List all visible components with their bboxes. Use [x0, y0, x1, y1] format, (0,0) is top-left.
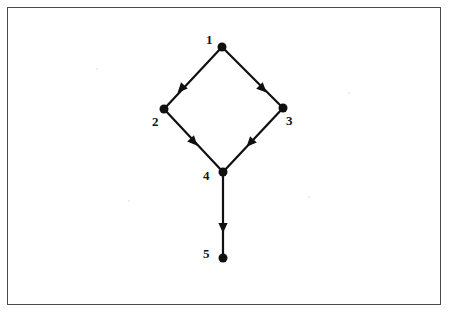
graph-node-4[interactable]: [219, 168, 228, 177]
scan-speck: [348, 92, 350, 94]
directed-graph-canvas: [0, 0, 449, 313]
edge-1-to-3: [222, 47, 283, 108]
graph-node-3[interactable]: [279, 104, 288, 113]
graph-node-2[interactable]: [160, 105, 169, 114]
arrowhead-4-to-5: [218, 223, 227, 233]
scan-speck: [128, 200, 130, 202]
scan-speck: [96, 68, 98, 70]
edge-1-to-2: [164, 47, 222, 109]
graph-node-5[interactable]: [219, 254, 228, 263]
scan-speck: [308, 196, 310, 198]
node-label-2: 2: [152, 115, 159, 128]
node-label-4: 4: [203, 169, 210, 182]
node-label-1: 1: [206, 33, 213, 46]
node-label-3: 3: [286, 114, 293, 127]
node-label-5: 5: [203, 247, 210, 260]
diagram-page: 12345: [0, 0, 449, 313]
graph-node-1[interactable]: [218, 43, 227, 52]
